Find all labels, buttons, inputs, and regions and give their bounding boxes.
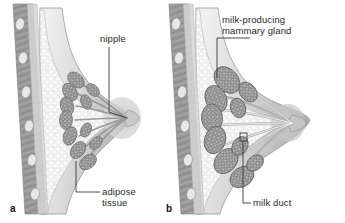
label-mammary-gland-line1: milk-producing <box>222 14 285 25</box>
label-adipose-line1: adipose <box>102 186 136 197</box>
label-nipple: nipple <box>100 33 126 44</box>
label-milk-duct: milk duct <box>253 197 291 208</box>
anatomy-illustration <box>0 0 345 223</box>
label-mammary-gland-line2: mammary gland <box>222 25 291 36</box>
breast-anatomy-figure: nipple milk-producingmammary gland adipo… <box>0 0 345 223</box>
label-adipose-line2: tissue <box>102 197 127 208</box>
panel-letter-a: a <box>10 203 16 214</box>
label-adipose-tissue: adiposetissue <box>102 186 136 208</box>
label-mammary-gland: milk-producingmammary gland <box>222 14 291 36</box>
panel-letter-b: b <box>166 203 172 214</box>
